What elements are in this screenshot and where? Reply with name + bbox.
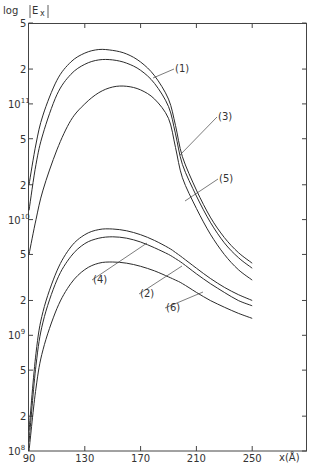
series-line-2 [29, 237, 252, 442]
leader-line [153, 69, 174, 78]
svg-text:E: E [32, 5, 38, 16]
plot-frame [29, 24, 307, 452]
curve-label: (3) [218, 111, 232, 122]
y-tick-label: 5 [20, 18, 26, 29]
y-tick-label: 2 [20, 64, 26, 75]
y-axis-ticks: 1082510925101025101125 [8, 18, 307, 457]
y-tick-label: 5 [20, 249, 26, 260]
y-axis-title: log [3, 5, 18, 16]
data-series [29, 49, 252, 451]
x-tick-label: 130 [75, 453, 94, 464]
field-amplitude-chart: 1082510925101025101125 90130170210250 lo… [0, 0, 311, 465]
x-tick-label: 90 [23, 453, 36, 464]
svg-text:x: x [40, 9, 45, 18]
x-tick-label: 210 [187, 453, 206, 464]
curve-labels: (1)(3)(5)(4)(2)(6) [92, 63, 233, 313]
x-tick-label: 250 [243, 453, 262, 464]
curve-label: (1) [175, 63, 189, 74]
y-tick-label: 5 [20, 134, 26, 145]
y-tick-label: 5 [20, 365, 26, 376]
curve-label: (2) [140, 288, 154, 299]
y-tick-label: 2 [20, 180, 26, 191]
y-tick-label: 2 [20, 411, 26, 422]
curve-label: (6) [166, 302, 180, 313]
y-tick-label: 109 [8, 328, 25, 341]
series-line-1 [29, 49, 252, 263]
series-line-3 [29, 59, 252, 268]
curve-label: (4) [93, 274, 107, 285]
y-tick-label: 1010 [8, 213, 30, 226]
x-axis-title: x(Å) [279, 451, 300, 463]
leader-line [180, 117, 217, 155]
y-axis-abs-symbol: E x [30, 5, 48, 18]
curve-label: (5) [219, 173, 233, 184]
series-line-4 [29, 229, 252, 431]
y-tick-label: 1011 [8, 97, 30, 110]
y-tick-label: 2 [20, 295, 26, 306]
x-tick-label: 170 [131, 453, 150, 464]
x-axis-ticks: 90130170210250 [23, 24, 262, 465]
